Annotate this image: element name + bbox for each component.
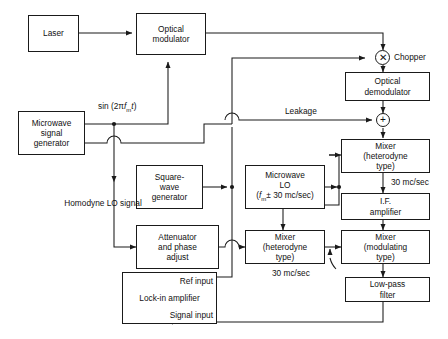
block-attenuator-phase-adjust[interactable]: Attenuator and phase adjust — [136, 225, 219, 269]
mixer-rate-label: 30 mc/sec — [272, 268, 310, 278]
chopper-icon: ✕ — [376, 51, 389, 64]
block-swg-line-2: generator — [152, 192, 188, 202]
block-mixer-bottom-line-1: (heterodyne — [263, 242, 307, 252]
homodyne-lo-line-0: Homodyne — [64, 198, 104, 208]
block-swg-line-1: wave — [160, 182, 179, 192]
summing-junction-node[interactable]: + — [376, 113, 390, 127]
block-if-amplifier[interactable]: I.F. amplifier — [341, 193, 430, 220]
block-low-pass-filter-line-0: Low-pass — [370, 279, 406, 289]
block-swg-line-0: Square- — [155, 172, 185, 182]
block-low-pass-filter-line-1: filter — [380, 290, 396, 300]
block-mixer-modulating-line-1: (modulating — [364, 242, 407, 252]
block-mixer-top-line-2: type) — [376, 161, 394, 171]
wire-modulator-to-chopper — [206, 33, 383, 50]
chopper-node[interactable]: ✕ — [375, 50, 390, 65]
block-if-amplifier-line-1: amplifier — [370, 207, 401, 217]
homodyne-lo-label: Homodyne LO signal — [60, 198, 146, 208]
block-lock-in-amplifier[interactable]: Ref input Lock-in amplifier Signal input — [122, 272, 217, 324]
block-mixer-top-line-1: (heterodyne — [363, 151, 407, 161]
if-rate-label: 30 mc/sec — [391, 177, 429, 187]
block-low-pass-filter[interactable]: Low-pass filter — [345, 277, 430, 302]
block-attenuator-line-2: adjust — [166, 252, 188, 262]
block-msg-line-0: Microwave — [32, 118, 72, 128]
block-attenuator-line-1: and phase — [158, 242, 197, 252]
block-mixer-heterodyne-top[interactable]: Mixer (heterodyne type) — [341, 139, 430, 173]
block-microwave-lo-line-1: LO — [279, 180, 290, 190]
block-mixer-modulating-line-2: type) — [376, 252, 394, 262]
block-msg-line-2: generator — [34, 138, 70, 148]
block-mixer-top-line-0: Mixer — [375, 141, 395, 151]
block-mixer-bottom-line-2: type) — [276, 252, 294, 262]
block-microwave-lo[interactable]: Microwave LO (fm± 30 mc/sec) — [245, 165, 325, 209]
block-mixer-modulating-line-0: Mixer — [375, 232, 395, 242]
block-microwave-signal-generator[interactable]: Microwave signal generator — [18, 111, 85, 155]
lock-in-ref-input-label: Ref input — [180, 276, 213, 286]
block-microwave-lo-formula: (fm± 30 mc/sec) — [256, 190, 314, 204]
block-mixer-modulating[interactable]: Mixer (modulating type) — [341, 230, 430, 264]
block-optical-demodulator-line-1: demodulator — [364, 87, 410, 97]
plus-icon: + — [377, 114, 389, 126]
wire-msg-lower-run — [85, 124, 232, 143]
block-diagram: Laser Optical modulator Microwave signal… — [0, 0, 448, 339]
block-mixer-bottom-line-0: Mixer — [275, 232, 295, 242]
block-optical-demodulator[interactable]: Optical demodulator — [345, 72, 430, 101]
block-optical-modulator-line-0: Optical — [158, 24, 184, 34]
block-if-amplifier-line-0: I.F. — [380, 196, 391, 206]
leader-30mc — [330, 258, 336, 269]
block-microwave-lo-line-0: Microwave — [265, 170, 305, 180]
block-laser-line-0: Laser — [43, 28, 64, 38]
block-optical-demodulator-line-0: Optical — [375, 76, 401, 86]
block-msg-line-1: signal — [41, 128, 63, 138]
lock-in-line-0: Lock-in — [139, 293, 166, 303]
lock-in-title: Lock-in amplifier — [123, 293, 216, 303]
leakage-label: Leakage — [285, 106, 317, 116]
block-optical-modulator[interactable]: Optical modulator — [136, 13, 206, 55]
wire-homodyne-to-attenuator — [114, 182, 136, 247]
lock-in-signal-input-label: Signal input — [170, 310, 213, 320]
block-mixer-heterodyne-bottom[interactable]: Mixer (heterodyne type) — [245, 230, 325, 264]
lock-in-line-1: amplifier — [168, 293, 199, 303]
chopper-label: Chopper — [394, 52, 426, 62]
block-attenuator-line-0: Attenuator — [158, 232, 196, 242]
homodyne-lo-line-1: LO signal — [107, 198, 142, 208]
block-square-wave-generator[interactable]: Square- wave generator — [136, 165, 203, 209]
sin-drive-label: sin (2πfmt) — [98, 101, 136, 115]
block-laser[interactable]: Laser — [28, 15, 79, 52]
wire-lo-bus-up — [329, 155, 339, 187]
block-optical-modulator-line-1: modulator — [153, 34, 190, 44]
